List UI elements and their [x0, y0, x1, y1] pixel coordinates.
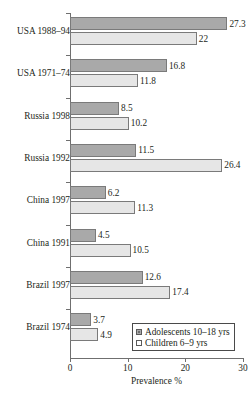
- bar-value-label: 11.8: [140, 76, 156, 86]
- dark-gray-square-icon: [136, 329, 142, 335]
- x-axis-tick: [243, 358, 244, 362]
- bar: [70, 32, 197, 45]
- bar-value-label: 12.6: [145, 272, 161, 282]
- x-axis-tick-label: 20: [181, 363, 190, 373]
- bar-value-label: 11.3: [137, 203, 153, 213]
- x-axis-tick: [185, 358, 186, 362]
- bar-value-label: 4.5: [98, 230, 110, 240]
- bar: [70, 117, 129, 130]
- y-axis-tick: [66, 98, 70, 99]
- bar: [70, 271, 143, 284]
- x-axis-tick: [128, 358, 129, 362]
- category-label: Brazil 1974: [26, 322, 70, 332]
- x-axis-line: [70, 358, 243, 359]
- chart-legend: Adolescents 10–18 yrs Children 6–9 yrs: [132, 323, 235, 351]
- y-axis-tick: [66, 182, 70, 183]
- bar: [70, 144, 136, 157]
- bar: [70, 159, 222, 172]
- category-label: Russia 1998: [24, 111, 70, 121]
- bar-value-label: 10.2: [131, 118, 147, 128]
- bar-value-label: 8.5: [121, 103, 133, 113]
- x-axis-tick-label: 0: [68, 363, 73, 373]
- legend-label-adolescents: Adolescents 10–18 yrs: [145, 327, 230, 337]
- y-axis-tick: [66, 267, 70, 268]
- category-label: China 1991: [27, 238, 70, 248]
- y-axis-tick: [66, 140, 70, 141]
- category-label: USA 1971–74: [17, 68, 70, 78]
- bar-chart: USA 1988–94USA 1971–74Russia 1998Russia …: [0, 0, 251, 394]
- bar: [70, 74, 138, 87]
- bar: [70, 102, 119, 115]
- light-gray-square-icon: [136, 340, 142, 346]
- bar-value-label: 11.5: [138, 145, 154, 155]
- legend-item-adolescents: Adolescents 10–18 yrs: [136, 326, 230, 337]
- x-axis-tick-label: 10: [123, 363, 132, 373]
- bar-value-label: 22: [199, 34, 208, 44]
- category-label: USA 1988–94: [17, 26, 70, 36]
- bar: [70, 286, 170, 299]
- y-axis-tick: [66, 55, 70, 56]
- bar: [70, 313, 91, 326]
- legend-item-children: Children 6–9 yrs: [136, 337, 230, 348]
- category-label: China 1997: [27, 195, 70, 205]
- category-label: Russia 1992: [24, 153, 70, 163]
- y-axis-tick: [66, 13, 70, 14]
- bar: [70, 328, 98, 341]
- bar-value-label: 10.5: [133, 245, 149, 255]
- bar: [70, 244, 131, 257]
- y-axis-tick: [66, 309, 70, 310]
- x-axis-title: Prevalence %: [70, 376, 243, 386]
- category-label: Brazil 1997: [26, 280, 70, 290]
- y-axis-tick: [66, 225, 70, 226]
- x-axis-tick-label: 30: [238, 363, 247, 373]
- bar-value-label: 16.8: [169, 61, 185, 71]
- bar: [70, 59, 167, 72]
- bar: [70, 229, 96, 242]
- bar-value-label: 27.3: [229, 19, 245, 29]
- bar-value-label: 6.2: [108, 188, 120, 198]
- bar: [70, 186, 106, 199]
- bar: [70, 201, 135, 214]
- bar-value-label: 17.4: [172, 287, 188, 297]
- legend-label-children: Children 6–9 yrs: [145, 338, 208, 348]
- bar-value-label: 4.9: [100, 330, 112, 340]
- bar-value-label: 26.4: [224, 160, 240, 170]
- bar: [70, 17, 227, 30]
- x-axis-tick: [70, 358, 71, 362]
- bar-value-label: 3.7: [93, 315, 105, 325]
